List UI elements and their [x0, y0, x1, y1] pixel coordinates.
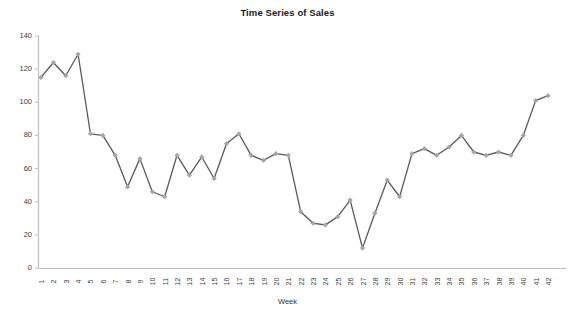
- data-point-marker: [286, 153, 291, 158]
- data-point-marker: [372, 211, 377, 216]
- data-point-marker: [261, 158, 266, 163]
- data-point-marker: [150, 189, 155, 194]
- data-point-marker: [360, 246, 365, 251]
- data-point-marker: [496, 149, 501, 154]
- chart-container: Time Series of Sales 020406080100120140 …: [0, 0, 575, 317]
- data-point-marker: [75, 52, 80, 57]
- data-point-marker: [162, 194, 167, 199]
- data-point-marker: [409, 151, 414, 156]
- data-point-marker: [484, 153, 489, 158]
- data-point-marker: [212, 176, 217, 181]
- data-point-marker: [545, 93, 550, 98]
- data-point-marker: [125, 184, 130, 189]
- data-point-marker: [137, 156, 142, 161]
- series-line-sales: [41, 54, 548, 248]
- data-point-marker: [249, 153, 254, 158]
- axes: [35, 36, 566, 269]
- data-point-marker: [422, 146, 427, 151]
- data-point-marker: [88, 131, 93, 136]
- plot-area: [0, 0, 575, 317]
- x-axis-title: Week: [0, 297, 575, 306]
- series-markers-sales: [38, 52, 550, 251]
- data-point-marker: [533, 98, 538, 103]
- data-point-marker: [273, 151, 278, 156]
